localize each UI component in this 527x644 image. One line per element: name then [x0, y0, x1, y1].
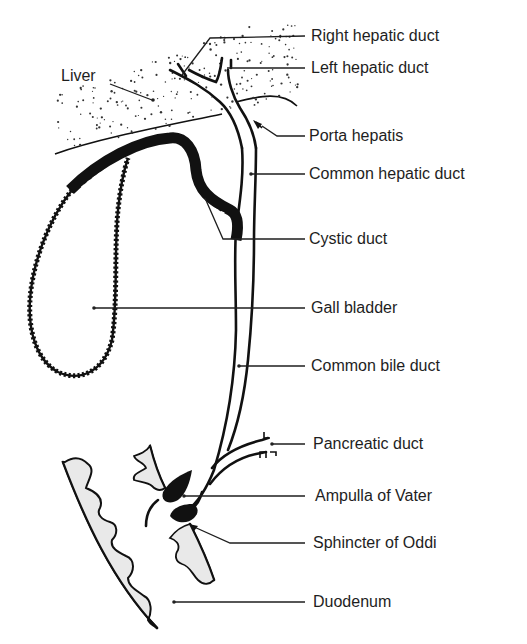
- label-pancreatic-duct: Pancreatic duct: [313, 435, 424, 452]
- gall-bladder: [30, 158, 128, 376]
- label-right-hepatic-duct: Right hepatic duct: [311, 27, 440, 44]
- label-ampulla-of-vater: Ampulla of Vater: [315, 487, 433, 504]
- label-common-bile-duct: Common bile duct: [311, 357, 441, 374]
- label-common-hepatic-duct: Common hepatic duct: [309, 165, 465, 182]
- label-liver: Liver: [61, 67, 96, 84]
- label-sphincter-of-oddi: Sphincter of Oddi: [313, 534, 437, 551]
- label-left-hepatic-duct: Left hepatic duct: [311, 59, 429, 76]
- pancreatic-duct-shape: [210, 432, 276, 484]
- label-gall-bladder: Gall bladder: [311, 299, 398, 316]
- cystic-duct: [70, 138, 238, 240]
- biliary-diagram: Liver Right hepatic duct Left hepatic du…: [0, 0, 527, 644]
- label-cystic-duct: Cystic duct: [309, 230, 388, 247]
- label-porta-hepatis: Porta hepatis: [309, 127, 403, 144]
- label-duodenum: Duodenum: [313, 593, 391, 610]
